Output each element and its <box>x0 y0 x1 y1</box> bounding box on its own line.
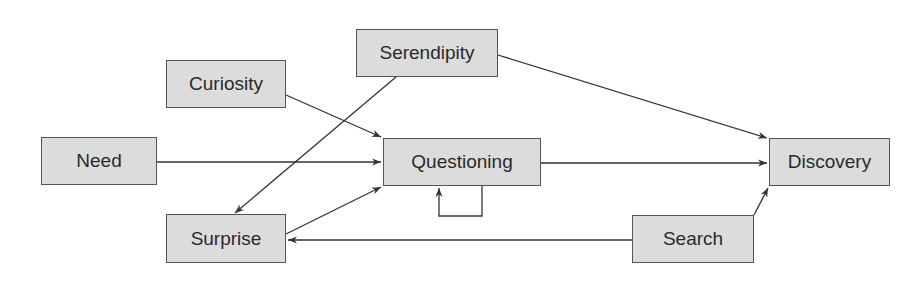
node-questioning: Questioning <box>383 138 541 186</box>
node-label: Curiosity <box>189 73 263 95</box>
edge-search-discovery <box>754 188 768 215</box>
node-label: Discovery <box>788 151 871 173</box>
node-need: Need <box>41 137 157 185</box>
node-label: Need <box>76 150 121 172</box>
edge-serendipity-discovery <box>498 55 767 138</box>
node-label: Surprise <box>191 228 262 250</box>
node-serendipity: Serendipity <box>356 29 498 77</box>
node-discovery: Discovery <box>769 138 890 186</box>
node-surprise: Surprise <box>166 214 286 263</box>
node-curiosity: Curiosity <box>166 60 286 108</box>
edge-questioning-self-loop <box>439 186 482 216</box>
node-label: Serendipity <box>379 42 474 64</box>
node-label: Questioning <box>411 151 512 173</box>
node-label: Search <box>663 228 723 250</box>
diagram-canvas: Serendipity Curiosity Need Questioning D… <box>0 0 922 284</box>
edge-surprise-questioning <box>286 187 381 234</box>
node-search: Search <box>632 215 754 263</box>
